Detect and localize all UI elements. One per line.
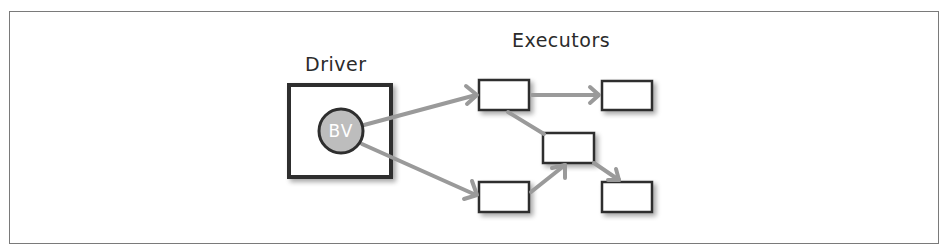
driver-label: Driver — [305, 55, 366, 74]
arrow-executor-1-to-executor-2 — [532, 87, 599, 103]
broadcast-variable-label: BV — [318, 120, 364, 142]
executor-node-3 — [543, 133, 594, 163]
arrow-executor-3-to-executor-5 — [594, 163, 619, 180]
arrow-executor-4-to-executor-3 — [531, 165, 565, 192]
broadcast-diagram — [0, 0, 949, 252]
executor-node-2 — [602, 81, 652, 110]
line-executor-1-to-executor-3 — [508, 112, 544, 134]
executor-node-5 — [602, 182, 652, 212]
executors-label: Executors — [512, 31, 610, 50]
executor-node-4 — [479, 182, 529, 212]
executor-node-1 — [479, 80, 529, 110]
